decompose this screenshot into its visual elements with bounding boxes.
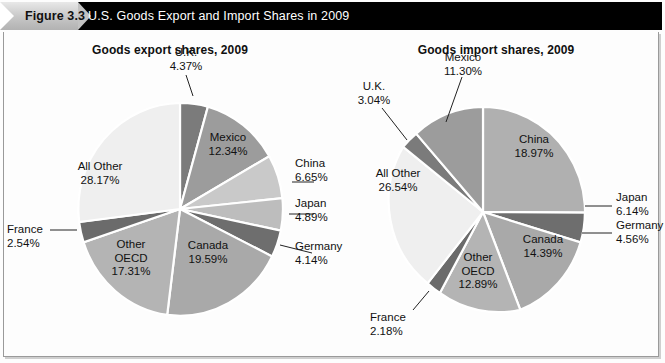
label-other-oecd: Other OECD 17.31% (95, 238, 167, 279)
label-france-pct: 2.54% (7, 237, 43, 251)
label-germany-name: Germany (616, 219, 663, 233)
label-japan: Japan 4.89% (295, 197, 328, 224)
label-other-oecd: Other OECD 12.89% (442, 251, 514, 292)
label-all-other-name: All Other (57, 160, 143, 174)
export-chart-panel: Goods export shares, 2009 (4, 34, 336, 354)
label-mexico-pct: 11.30% (425, 65, 501, 79)
leader-line-uk (186, 75, 193, 96)
label-other-oecd-name-2: OECD (442, 265, 514, 279)
figure-number-label: Figure 3.3 (18, 2, 92, 30)
label-uk-name: U.K. (150, 46, 222, 60)
label-mexico-name: Mexico (190, 131, 266, 145)
label-france-pct: 2.18% (370, 325, 406, 339)
frame-shadow-bottom (5, 357, 661, 359)
label-uk-pct: 3.04% (342, 94, 406, 108)
label-canada-pct: 19.59% (170, 253, 246, 267)
label-other-oecd-name-1: Other (442, 251, 514, 265)
label-uk-pct: 4.37% (150, 60, 222, 74)
label-france-name: France (370, 311, 406, 325)
label-china-name: China (496, 133, 572, 147)
label-all-other: All Other 26.54% (355, 167, 441, 194)
label-canada-name: Canada (170, 239, 246, 253)
label-japan-name: Japan (295, 197, 328, 211)
import-chart-panel: Goods import shares, 2009 (330, 34, 662, 354)
label-uk: U.K. 4.37% (150, 46, 222, 73)
label-japan-pct: 6.14% (616, 205, 649, 219)
leader-line-france (413, 291, 429, 310)
label-all-other-pct: 26.54% (355, 181, 441, 195)
label-japan-name: Japan (616, 191, 649, 205)
label-all-other: All Other 28.17% (57, 160, 143, 187)
figure-title: U.S. Goods Export and Import Shares in 2… (88, 2, 349, 30)
label-china-pct: 18.97% (496, 147, 572, 161)
leader-line-uk (382, 108, 407, 140)
label-uk-name: U.K. (342, 80, 406, 94)
label-japan-pct: 4.89% (295, 211, 328, 225)
label-mexico-pct: 12.34% (190, 145, 266, 159)
label-china-pct: 6.65% (295, 171, 328, 185)
export-pie-chart (4, 34, 336, 354)
label-uk: U.K. 3.04% (342, 80, 406, 107)
label-mexico-name: Mexico (425, 51, 501, 65)
figure-tab-arrow-icon (0, 2, 14, 30)
label-all-other-pct: 28.17% (57, 174, 143, 188)
label-japan: Japan 6.14% (616, 191, 649, 218)
label-canada: Canada 19.59% (170, 239, 246, 266)
label-other-oecd-pct: 12.89% (442, 278, 514, 292)
label-mexico: Mexico 11.30% (425, 51, 501, 78)
label-canada-name: Canada (505, 233, 581, 247)
label-france: France 2.18% (370, 311, 406, 338)
label-other-oecd-pct: 17.31% (95, 265, 167, 279)
label-germany: Germany 4.56% (616, 219, 663, 246)
label-all-other-name: All Other (355, 167, 441, 181)
label-other-oecd-name-1: Other (95, 238, 167, 252)
label-china: China 18.97% (496, 133, 572, 160)
label-other-oecd-name-2: OECD (95, 252, 167, 266)
label-canada: Canada 14.39% (505, 233, 581, 260)
label-china-name: China (295, 157, 328, 171)
figure-container: Figure 3.3 U.S. Goods Export and Import … (0, 0, 665, 363)
label-france: France 2.54% (7, 223, 43, 250)
label-france-name: France (7, 223, 43, 237)
label-mexico: Mexico 12.34% (190, 131, 266, 158)
label-germany-pct: 4.56% (616, 233, 663, 247)
label-canada-pct: 14.39% (505, 247, 581, 261)
label-china: China 6.65% (295, 157, 328, 184)
